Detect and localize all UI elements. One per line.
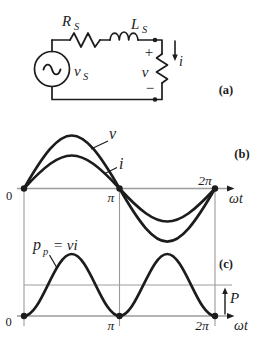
b-dot-2pi — [212, 185, 218, 191]
junction-dot-bottom — [153, 97, 158, 102]
c-axis-label: ωt — [234, 318, 249, 333]
resistor-rs-icon — [70, 33, 100, 47]
current-label: i — [179, 54, 183, 69]
b-tick-0: 0 — [6, 189, 12, 203]
source-label-sub: S — [83, 71, 89, 82]
circuit-schematic — [35, 32, 178, 102]
v-label-leader — [91, 141, 108, 149]
c-tick-2pi: 2π — [195, 318, 210, 333]
pp-curve-label-rest: = vi — [53, 237, 78, 253]
load-resistor-icon — [157, 54, 168, 83]
c-dot-0 — [21, 313, 27, 319]
avg-power-arrow-head-icon — [222, 288, 228, 295]
minus-sign: − — [146, 80, 154, 96]
v-curve-label: v — [109, 125, 117, 142]
panel-a-tag: (a) — [219, 83, 234, 97]
circuit-labels: R S L S v S + v − i (a) — [61, 13, 233, 97]
c-dot-2pi — [212, 313, 218, 319]
b-dot-pi — [116, 185, 122, 191]
c-tick-0: 0 — [5, 315, 11, 329]
sine-symbol-icon — [44, 65, 61, 75]
panel-c-tag: (c) — [219, 257, 233, 271]
current-arrow-head-icon — [172, 55, 178, 62]
power-plot: p p = vi P 0 π 2π ωt (c) — [5, 236, 249, 333]
textbook-figure: R S L S v S + v − i (a) v i 0 π 2π ωt (b… — [0, 0, 264, 346]
pp-curve-label: p — [32, 236, 41, 254]
pp-curve-label-sub: p — [42, 246, 48, 257]
load-voltage-label: v — [142, 64, 149, 80]
figure-canvas: R S L S v S + v − i (a) v i 0 π 2π ωt (b… — [0, 0, 264, 346]
c-tick-pi: π — [108, 318, 116, 333]
gridlines — [24, 189, 215, 327]
inductor-ls-icon — [110, 32, 138, 40]
resistor-label-sub: S — [74, 21, 80, 32]
b-dot-0 — [21, 185, 27, 191]
panel-b-tag: (b) — [234, 147, 249, 161]
avg-power-label: P — [229, 290, 239, 306]
b-tick-pi: π — [108, 190, 116, 205]
resistor-label: R — [61, 13, 71, 29]
i-curve-label: i — [119, 155, 123, 172]
plus-sign: + — [145, 44, 153, 60]
source-label: v — [74, 63, 81, 79]
junction-dot-top — [153, 38, 158, 43]
b-axis-label: ωt — [229, 191, 244, 206]
c-dot-pi — [116, 313, 122, 319]
inductor-label-sub: S — [142, 24, 148, 35]
waveform-plot: v i 0 π 2π ωt (b) — [6, 125, 250, 242]
inductor-label: L — [130, 16, 139, 32]
pp-label-leader — [50, 255, 58, 268]
b-tick-2pi: 2π — [198, 173, 213, 188]
